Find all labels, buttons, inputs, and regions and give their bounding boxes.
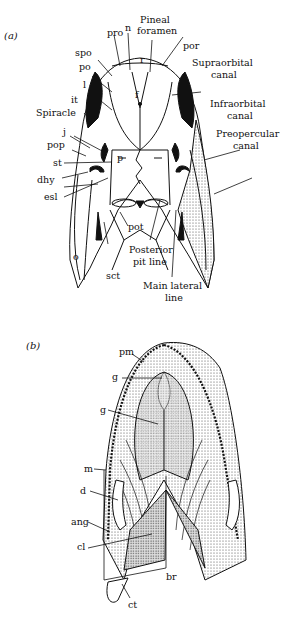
label-sct: sct [106, 271, 120, 281]
panel-label-b: (b) [26, 340, 40, 351]
label-supraorbital-canal: canal [211, 70, 237, 80]
skull-ventral-view [103, 342, 246, 602]
label-supraorbital: Supraorbital [192, 58, 253, 68]
label-n: n [125, 23, 131, 33]
label-infraorbital: Infraorbital [210, 99, 266, 109]
label-br: br [166, 572, 177, 582]
label-infraorbital-canal: canal [227, 111, 253, 121]
label-preopercular: Preopercular [216, 129, 279, 139]
label-po: po [79, 62, 91, 72]
label-foramen: foramen [137, 26, 177, 36]
label-f: f [135, 90, 139, 100]
label-r: r [140, 55, 145, 65]
label-preopercular-canal: canal [233, 141, 259, 151]
label-ct: ct [128, 600, 137, 610]
label-pineal: Pineal [140, 15, 170, 25]
label-main-lateral: Main lateral [143, 281, 202, 291]
label-it: it [71, 95, 78, 105]
label-pot: pot [128, 222, 144, 232]
label-m: m [84, 464, 93, 474]
label-ang: ang [71, 517, 89, 527]
label-spiracle: Spiracle [36, 108, 76, 118]
label-dhy: dhy [37, 175, 55, 185]
label-esl: esl [44, 192, 58, 202]
label-st: st [53, 158, 62, 168]
label-posterior-pit-line: pit line [133, 257, 167, 267]
diagram-drawing [0, 0, 284, 626]
label-o: o [73, 252, 79, 262]
label-j: j [63, 127, 66, 137]
label-por: por [183, 41, 199, 51]
label-pro: pro [107, 28, 123, 38]
label-spo: spo [75, 48, 92, 58]
label-g-upper: g [112, 372, 118, 382]
label-pop: pop [47, 140, 65, 150]
label-l: l [83, 80, 86, 90]
label-d: d [80, 486, 86, 496]
label-pm: pm [119, 347, 134, 357]
label-main-lateral-line: line [165, 293, 183, 303]
label-posterior-pit: Posterior [129, 245, 173, 255]
label-cl: cl [77, 542, 85, 552]
label-p: p [117, 153, 123, 163]
label-g-lower: g [100, 405, 106, 415]
panel-label-a: (a) [4, 30, 18, 41]
